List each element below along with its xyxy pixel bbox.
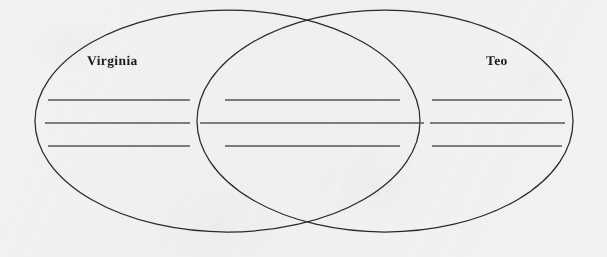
venn-label-left: Virginia bbox=[87, 53, 138, 69]
venn-ellipse-right[interactable] bbox=[197, 10, 573, 232]
venn-label-right: Teo bbox=[486, 53, 508, 69]
venn-diagram-page: Virginia Teo bbox=[0, 0, 607, 257]
writing-lines-right-region bbox=[430, 100, 565, 146]
writing-lines-left-region bbox=[45, 100, 190, 146]
venn-diagram-canvas bbox=[0, 0, 607, 257]
writing-lines-intersection-region bbox=[200, 100, 424, 146]
venn-ellipse-left[interactable] bbox=[35, 10, 420, 232]
